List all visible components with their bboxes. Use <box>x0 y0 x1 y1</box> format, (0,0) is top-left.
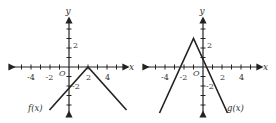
x-axis-label: x <box>263 62 268 72</box>
x-axis-label: x <box>129 62 134 72</box>
x-tick-label: 4 <box>105 73 110 82</box>
graph-g-canvas: x y O -4 -2 2 4 2 -2 g(x) <box>136 0 276 123</box>
y-axis-label: y <box>65 6 72 16</box>
f-function-label: f(x) <box>27 103 43 113</box>
g-function-label: g(x) <box>227 103 244 113</box>
x-tick-label: -2 <box>46 73 54 82</box>
x-tick-label: 2 <box>86 73 91 82</box>
origin-label: O <box>193 69 200 78</box>
x-tick-label: 4 <box>239 73 244 82</box>
y-tick-label: 2 <box>73 41 78 50</box>
y-tick-label: 2 <box>207 41 212 50</box>
x-tick-label: -4 <box>27 73 35 82</box>
y-tick-label: -2 <box>206 82 214 91</box>
graph-f-canvas: x y O -4 -2 2 4 2 -2 f(x) <box>0 0 138 123</box>
origin-label: O <box>59 69 66 78</box>
y-tick-label: -2 <box>72 82 80 91</box>
graph-f: x y O -4 -2 2 4 2 -2 f(x) <box>0 0 138 123</box>
x-tick-label: 2 <box>220 73 225 82</box>
graph-g: x y O -4 -2 2 4 2 -2 g(x) <box>136 0 276 123</box>
x-tick-label: -2 <box>180 73 188 82</box>
y-axis-label: y <box>199 6 206 16</box>
x-tick-label: -4 <box>161 73 169 82</box>
